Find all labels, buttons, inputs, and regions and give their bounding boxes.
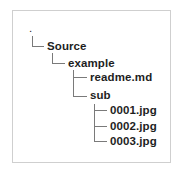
connector-line	[94, 126, 107, 127]
connector-line	[94, 141, 107, 142]
tree-node-sub: sub	[90, 89, 111, 102]
tree-node-file: 0001.jpg	[110, 104, 157, 117]
connector-line	[73, 77, 87, 78]
tree-node-file: 0003.jpg	[110, 135, 157, 148]
connector-line	[94, 110, 107, 111]
connector-line	[52, 63, 65, 64]
tree-node-readme: readme.md	[90, 71, 152, 84]
tree-node-example: example	[68, 57, 115, 70]
connector-line	[73, 70, 74, 97]
tree-node-source: Source	[47, 40, 87, 53]
connector-line	[73, 96, 87, 97]
tree-node-file: 0002.jpg	[110, 120, 157, 133]
connector-line	[32, 46, 44, 47]
tree-node-root: .	[29, 22, 32, 35]
